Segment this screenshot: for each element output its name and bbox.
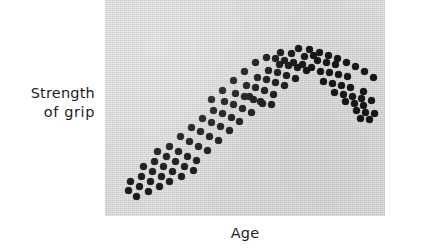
data-point xyxy=(371,110,378,117)
data-point xyxy=(360,102,367,109)
data-point xyxy=(351,100,358,107)
data-point xyxy=(368,97,375,104)
data-point xyxy=(138,173,145,180)
data-point xyxy=(230,101,237,108)
data-point xyxy=(248,109,255,116)
data-point xyxy=(178,173,185,180)
data-point xyxy=(206,133,213,140)
data-point xyxy=(360,88,367,95)
data-point xyxy=(257,98,264,105)
data-point xyxy=(136,183,143,190)
data-point xyxy=(317,68,324,75)
data-point xyxy=(175,148,182,155)
data-point xyxy=(295,45,302,52)
data-point xyxy=(288,50,295,57)
data-point xyxy=(325,52,332,59)
y-axis-label: Strength of grip xyxy=(0,84,95,122)
data-point xyxy=(184,153,191,160)
data-point xyxy=(349,93,356,100)
data-point xyxy=(290,59,297,66)
data-point xyxy=(357,115,364,122)
data-point xyxy=(246,93,253,100)
data-point xyxy=(199,115,206,122)
data-point xyxy=(344,73,351,80)
x-axis-label: Age xyxy=(105,224,385,242)
y-axis-label-line1: Strength xyxy=(31,85,95,101)
data-point xyxy=(352,63,359,70)
data-point xyxy=(197,128,204,135)
data-point xyxy=(217,123,224,130)
data-point xyxy=(342,98,349,105)
data-point xyxy=(226,127,233,134)
data-point xyxy=(272,79,279,86)
data-point xyxy=(281,82,288,89)
data-point xyxy=(208,119,215,126)
data-point xyxy=(366,116,373,123)
data-point xyxy=(133,193,140,200)
data-point xyxy=(230,77,237,84)
data-point xyxy=(301,53,308,60)
scatter-figure: Strength of grip Age xyxy=(0,0,422,252)
data-point xyxy=(252,84,259,91)
data-point xyxy=(239,105,246,112)
data-point xyxy=(272,55,279,62)
data-point xyxy=(154,148,161,155)
data-point xyxy=(358,95,365,102)
data-point xyxy=(277,49,284,56)
data-point xyxy=(334,55,341,62)
data-point xyxy=(335,71,342,78)
data-point xyxy=(274,69,281,76)
data-point xyxy=(241,68,248,75)
data-point xyxy=(215,137,222,144)
data-point xyxy=(149,168,156,175)
data-point xyxy=(172,158,179,165)
data-point xyxy=(169,168,176,175)
data-point xyxy=(268,101,275,108)
data-point xyxy=(326,69,333,76)
data-point xyxy=(219,87,226,94)
data-point xyxy=(186,138,193,145)
data-point xyxy=(166,178,173,185)
data-point xyxy=(221,98,228,105)
data-point xyxy=(210,107,217,114)
data-point xyxy=(263,54,270,61)
data-point xyxy=(228,114,235,121)
data-point xyxy=(283,72,290,79)
data-point xyxy=(281,57,288,64)
data-point xyxy=(156,183,163,190)
data-point xyxy=(181,163,188,170)
data-point xyxy=(236,118,243,125)
data-point xyxy=(353,107,360,114)
data-point xyxy=(232,90,239,97)
data-point xyxy=(208,96,215,103)
data-point xyxy=(316,49,323,56)
data-point xyxy=(332,61,339,68)
data-point xyxy=(195,143,202,150)
data-point xyxy=(177,133,184,140)
data-point xyxy=(340,91,347,98)
data-point xyxy=(338,82,345,89)
data-point xyxy=(219,110,226,117)
data-point xyxy=(261,87,268,94)
data-point xyxy=(140,163,147,170)
data-point xyxy=(362,109,369,116)
data-point xyxy=(323,59,330,66)
data-point xyxy=(160,163,167,170)
plot-panel xyxy=(105,0,385,216)
data-point xyxy=(263,76,270,83)
data-point xyxy=(270,91,277,98)
data-point xyxy=(308,64,315,71)
data-point xyxy=(331,89,338,96)
data-point xyxy=(163,153,170,160)
data-point xyxy=(254,74,261,81)
data-point xyxy=(299,61,306,68)
data-point xyxy=(361,68,368,75)
data-point xyxy=(190,167,197,174)
data-point xyxy=(125,187,132,194)
data-point xyxy=(151,158,158,165)
data-point xyxy=(265,67,272,74)
data-point xyxy=(347,84,354,91)
data-point xyxy=(292,75,299,82)
data-point xyxy=(329,80,336,87)
data-point xyxy=(306,46,313,53)
